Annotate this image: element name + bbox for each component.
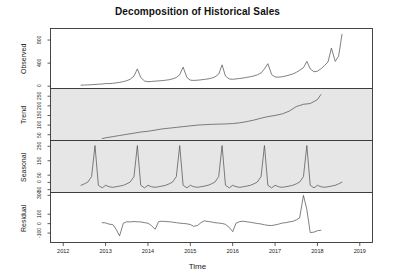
xtick-label: 2015 bbox=[180, 248, 200, 254]
panel-trend-background bbox=[51, 89, 373, 141]
xtick-label: 2017 bbox=[265, 248, 285, 254]
chart-title: Decomposition of Historical Sales bbox=[0, 6, 395, 17]
xtick-label: 2019 bbox=[350, 248, 370, 254]
xtick-label: 2018 bbox=[307, 248, 327, 254]
ytick-label-residual: 300 bbox=[36, 186, 42, 204]
xtick-label: 2013 bbox=[96, 248, 116, 254]
panel-observed-background bbox=[51, 29, 373, 89]
xtick-label: 2014 bbox=[138, 248, 158, 254]
xtick-label: 2012 bbox=[53, 248, 73, 254]
y-axis-label-trend: Trend bbox=[20, 89, 32, 141]
y-axis-label-observed: Observed bbox=[20, 29, 32, 89]
x-axis-label: Time bbox=[0, 262, 395, 271]
panel-residual-background bbox=[51, 193, 373, 243]
plot-canvas bbox=[0, 0, 395, 279]
y-axis-label-residual: Residual bbox=[20, 193, 32, 243]
ytick-label-trend: 250 bbox=[36, 87, 42, 105]
ytick-label-observed: 800 bbox=[36, 31, 42, 49]
xtick-label: 2016 bbox=[223, 248, 243, 254]
ytick-label-residual: 100 bbox=[36, 205, 42, 223]
y-axis-label-seasonal: Seasonal bbox=[20, 141, 32, 193]
ytick-label-observed: 400 bbox=[36, 54, 42, 72]
ytick-label-seasonal: 250 bbox=[36, 137, 42, 155]
panel-seasonal-background bbox=[51, 141, 373, 193]
decomposition-chart: Decomposition of Historical Sales 040080… bbox=[0, 0, 395, 279]
